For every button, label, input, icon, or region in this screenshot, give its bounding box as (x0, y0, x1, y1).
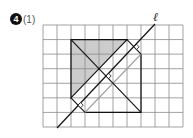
right-angle-mark (78, 103, 83, 108)
right-angle-mark (106, 73, 111, 78)
reflection-diagram (0, 0, 193, 138)
